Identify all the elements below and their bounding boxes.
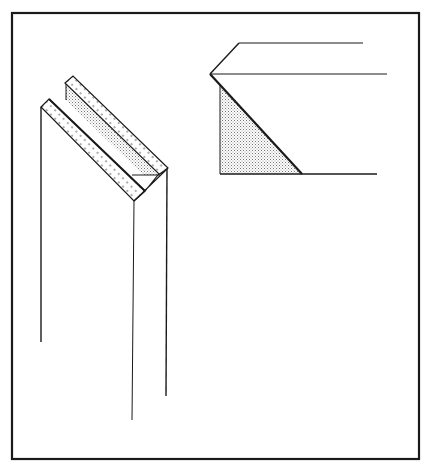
front-vertical-edge (132, 201, 134, 420)
miter-joint-diagram (0, 0, 430, 473)
right-vertical-edge (166, 169, 167, 396)
diagram-canvas (0, 0, 430, 473)
back-slope-edge (210, 43, 239, 74)
isometric-miter-board (41, 76, 168, 420)
miter-end-section (210, 43, 387, 174)
back-edge-strip (65, 76, 168, 175)
